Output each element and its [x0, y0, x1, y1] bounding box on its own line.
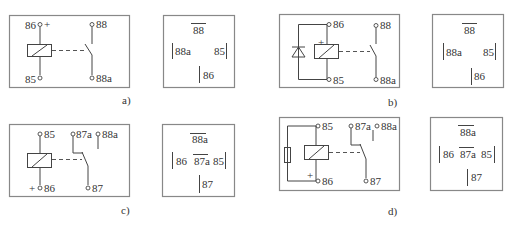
polarity-label: + [44, 18, 50, 30]
terminal-label: 88 [380, 19, 392, 31]
terminal-88a [375, 124, 379, 128]
terminal-label: 85 [333, 74, 345, 86]
pin-label-bottom: 87 [471, 171, 483, 183]
terminal-88a [96, 132, 100, 136]
schematic-c: 85 + 86 87a 88a 87 [10, 125, 130, 197]
terminal-87a [71, 132, 75, 136]
pin-label-right: 85 [481, 148, 493, 160]
terminal-86 [38, 186, 42, 190]
relay-diagram-figure: 86 + 85 88 88a 88 88a 85 86 a) [0, 0, 510, 229]
pin-layout-c: 88a 86 87a 85 87 [163, 125, 235, 197]
terminal-label: 88a [102, 128, 118, 140]
terminal-85 [38, 132, 42, 136]
terminal-label: 88a [96, 72, 112, 84]
schematic-a: 86 + 85 88 88a [10, 16, 130, 88]
terminal-label: 88a [380, 74, 396, 86]
pin-label-right: 85 [214, 45, 226, 57]
pin-label-left: 86 [176, 155, 188, 167]
terminal-label: 87 [92, 182, 104, 194]
terminal-86 [327, 23, 331, 27]
terminal-85 [327, 78, 331, 82]
terminal-label: 86 [44, 182, 56, 194]
pin-layout-a: 88 88a 85 86 [164, 16, 235, 88]
pin-label-center: 87a [194, 155, 210, 167]
terminal-label: 85 [25, 73, 37, 85]
pin-label-top: 88a [460, 126, 476, 138]
panel-a: 86 + 85 88 88a 88 88a 85 86 a) [10, 16, 235, 108]
terminal-88a [90, 76, 94, 80]
pin-label-bottom: 87 [202, 178, 214, 190]
polarity-label: + [307, 169, 313, 181]
terminal-88a [374, 78, 378, 82]
panel-caption: a) [122, 94, 131, 107]
pin-label-left: 88a [446, 46, 462, 58]
pin-label-right: 85 [483, 46, 495, 58]
panel-caption: c) [121, 204, 130, 217]
terminal-88 [374, 24, 378, 28]
terminal-label: 85 [322, 120, 334, 132]
panel-b: + 86 85 88 88a 88 88a 85 86 b) [280, 15, 504, 110]
panel-caption: d) [388, 205, 398, 218]
pin-label-right: 85 [213, 155, 225, 167]
panel-d: 85 + 86 87a 88a 87 88a 86 87a 85 [280, 118, 503, 219]
pin-label-top: 88a [192, 133, 208, 145]
terminal-label: 87a [355, 120, 371, 132]
pin-label-bottom: 86 [203, 69, 215, 81]
panel-caption: b) [388, 96, 398, 109]
terminal-88 [90, 23, 94, 27]
pin-label-bottom: 86 [474, 70, 486, 82]
terminal-label: 86 [333, 18, 345, 30]
pin-label-left: 88a [175, 45, 191, 57]
polarity-label: + [318, 36, 324, 48]
pin-label-center: 87a [460, 148, 476, 160]
schematic-d: 85 + 86 87a 88a 87 [280, 118, 400, 191]
pin-label-top: 88 [464, 24, 476, 36]
pin-label-top: 88 [193, 24, 205, 36]
polarity-label: + [29, 182, 35, 194]
terminal-label: 86 [322, 175, 334, 187]
terminal-label: 86 [25, 19, 37, 31]
pin-label-left: 86 [443, 148, 455, 160]
terminal-87a [349, 124, 353, 128]
terminal-86 [316, 179, 320, 183]
terminal-85 [38, 76, 42, 80]
terminal-label: 88a [381, 120, 397, 132]
schematic-b: + 86 85 88 88a [280, 15, 400, 88]
terminal-87 [86, 186, 90, 190]
terminal-87 [364, 179, 368, 183]
terminal-85 [316, 124, 320, 128]
terminal-label: 87 [370, 175, 382, 187]
terminal-label: 85 [44, 128, 56, 140]
pin-layout-d: 88a 86 87a 85 87 [431, 118, 503, 191]
pin-layout-b: 88 88a 85 86 [433, 15, 504, 88]
terminal-label: 88 [96, 18, 108, 30]
terminal-label: 87a [76, 128, 92, 140]
terminal-86 [38, 23, 42, 27]
panel-c: 85 + 86 87a 88a 87 88a 86 87a 85 [10, 125, 235, 218]
